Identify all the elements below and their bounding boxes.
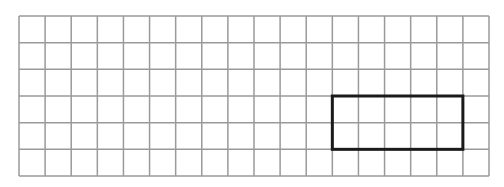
grid-diagram bbox=[0, 0, 504, 187]
